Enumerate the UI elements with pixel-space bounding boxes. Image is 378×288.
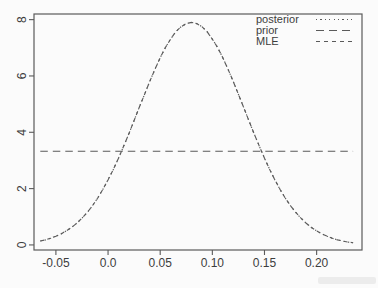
y-axis-tick-label: 6 [15, 72, 29, 79]
legend-line-sample-prior [316, 30, 354, 31]
x-axis-tick-label: 0.0 [100, 256, 117, 270]
y-axis-tick-label: 0 [15, 241, 29, 248]
x-axis-tick-label: 0.15 [253, 256, 277, 270]
y-axis-tick-label: 2 [15, 185, 29, 192]
x-axis-tick-label: 0.05 [149, 256, 173, 270]
plot-figure: -0.050.00.050.100.150.2002468 posterior … [0, 0, 378, 288]
x-axis-tick-label: 0.20 [305, 256, 329, 270]
series-mle [40, 22, 353, 242]
legend-line-sample-mle [316, 41, 354, 42]
y-axis-tick-label: 4 [15, 129, 29, 136]
scan-artifact [318, 277, 376, 284]
x-axis-tick-label: -0.05 [42, 256, 70, 270]
series-posterior [40, 22, 353, 242]
legend-item-mle: MLE [252, 36, 354, 47]
legend: posterior prior MLE [252, 14, 354, 47]
y-axis-tick-label: 8 [15, 16, 29, 23]
plot-border [34, 14, 362, 250]
legend-line-sample-posterior [316, 19, 354, 20]
legend-label-mle: MLE [252, 36, 316, 47]
x-axis-tick-label: 0.10 [201, 256, 225, 270]
